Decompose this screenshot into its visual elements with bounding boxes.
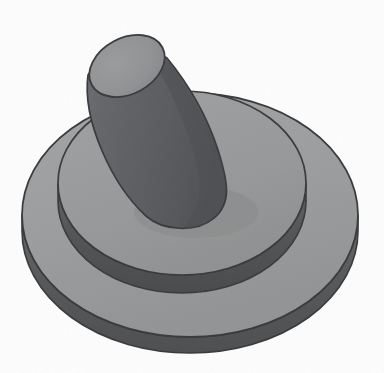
render-canvas: Grayscale 3D rendering of a two-step cir…	[0, 0, 384, 373]
film-grain-overlay	[0, 0, 384, 373]
stepped-cylinder-illustration	[0, 0, 384, 373]
